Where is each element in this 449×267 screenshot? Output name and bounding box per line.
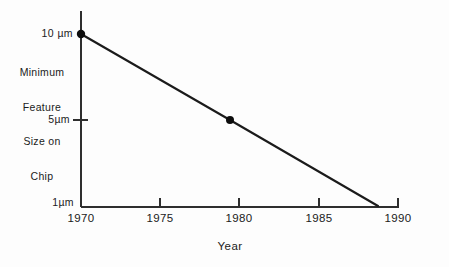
y-axis-title: Minimum Feature Size on Chip bbox=[6, 44, 78, 205]
chart-figure: 10 µm 5µm 1µm Minimum Feature Size on Ch… bbox=[0, 0, 449, 267]
x-tick-label-1985: 1985 bbox=[294, 212, 344, 224]
y-axis-title-line-3: Size on bbox=[6, 136, 78, 148]
x-tick-label-1975: 1975 bbox=[135, 212, 185, 224]
x-tick-label-1980: 1980 bbox=[214, 212, 264, 224]
x-tick-label-1990: 1990 bbox=[373, 212, 423, 224]
y-axis-title-line-1: Minimum bbox=[6, 67, 78, 79]
y-tick-label-10um: 10 µm bbox=[8, 28, 73, 39]
x-tick-label-1970: 1970 bbox=[56, 212, 106, 224]
data-point-1970 bbox=[77, 30, 85, 38]
x-axis-title: Year bbox=[180, 240, 280, 252]
data-point-1979 bbox=[226, 116, 234, 124]
y-axis-title-line-4: Chip bbox=[6, 171, 78, 183]
y-axis-title-line-2: Feature bbox=[6, 102, 78, 114]
